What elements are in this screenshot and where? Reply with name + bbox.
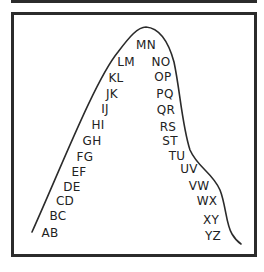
label-ab: AB xyxy=(41,227,58,239)
label-uv: UV xyxy=(180,163,198,175)
label-wx: WX xyxy=(197,195,218,207)
label-cd: CD xyxy=(56,195,74,207)
label-de: DE xyxy=(63,181,80,193)
label-qr: QR xyxy=(157,104,175,116)
label-tu: TU xyxy=(169,150,186,162)
label-bc: BC xyxy=(49,210,66,222)
label-lm: LM xyxy=(117,56,135,68)
label-kl: KL xyxy=(108,72,123,84)
label-vw: VW xyxy=(189,180,210,192)
label-ef: EF xyxy=(71,166,86,178)
label-xy: XY xyxy=(203,214,219,226)
label-fg: FG xyxy=(77,151,94,163)
label-hi: HI xyxy=(91,119,104,131)
label-ij: IJ xyxy=(101,103,109,115)
label-yz: YZ xyxy=(205,230,221,242)
label-mn: MN xyxy=(136,39,156,51)
label-jk: JK xyxy=(106,88,118,100)
label-st: ST xyxy=(162,135,178,147)
bell-curve xyxy=(0,0,264,272)
label-gh: GH xyxy=(83,135,102,147)
label-rs: RS xyxy=(160,121,177,133)
label-pq: PQ xyxy=(156,88,173,100)
label-no: NO xyxy=(151,56,170,68)
label-op: OP xyxy=(154,71,171,83)
